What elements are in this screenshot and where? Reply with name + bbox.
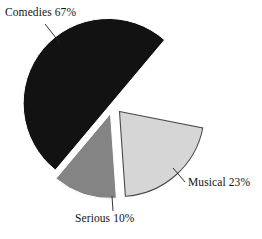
pie-label-musical: Musical 23% <box>188 176 250 189</box>
pie-chart: Comedies 67% Musical 23% Serious 10% <box>0 0 262 239</box>
pie-chart-graphic <box>0 0 262 239</box>
pie-label-serious: Serious 10% <box>75 212 135 225</box>
pie-label-comedies: Comedies 67% <box>5 6 76 19</box>
